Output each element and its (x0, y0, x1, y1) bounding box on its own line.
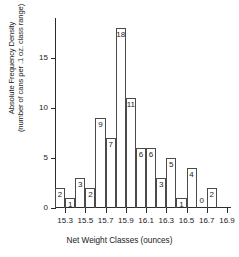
x-tick-label: 15.9 (118, 216, 134, 225)
x-tick-label: 15.7 (98, 216, 114, 225)
histogram-bar: 6 (146, 148, 156, 208)
bar-value: 0 (199, 197, 203, 205)
x-tick (187, 208, 188, 213)
x-tick (207, 208, 208, 213)
x-tick-label: 15.5 (78, 216, 94, 225)
histogram-bar: 11 (126, 98, 136, 208)
x-tick (126, 208, 127, 213)
y-tick: 5 (51, 158, 56, 159)
x-tick (146, 208, 147, 213)
histogram-figure: Absolute Frequency Density (number of ca… (0, 0, 239, 257)
y-tick: 15 (51, 58, 56, 59)
x-tick (166, 208, 167, 213)
y-tick-label: 0 (44, 203, 48, 212)
x-tick-label: 16.7 (199, 216, 215, 225)
histogram-bar: 5 (166, 158, 176, 208)
histogram-bar: 1 (176, 198, 186, 208)
bar-value: 7 (108, 141, 112, 149)
bar-value: 3 (78, 181, 82, 189)
y-tick-label: 15 (39, 53, 48, 62)
y-tick-label: 10 (39, 103, 48, 112)
bar-value: 1 (68, 201, 72, 209)
histogram-bar: 1 (65, 198, 75, 208)
bar-value: 6 (149, 151, 153, 159)
bar-value: 11 (127, 101, 135, 109)
histogram-bar: 2 (207, 188, 217, 208)
x-tick-label: 15.3 (57, 216, 73, 225)
x-tick-label: 16.3 (158, 216, 174, 225)
x-axis-title: Net Weight Classes (ounces) (0, 236, 239, 245)
bar-value: 5 (169, 161, 173, 169)
bar-value: 2 (88, 191, 92, 199)
histogram-bar: 9 (95, 118, 105, 208)
y-axis-line (55, 18, 56, 208)
x-tick (85, 208, 86, 213)
histogram-bar: 6 (136, 148, 146, 208)
bar-value: 18 (116, 31, 125, 39)
x-tick-label: 16.9 (219, 216, 235, 225)
x-tick (227, 208, 228, 213)
histogram-bar: 3 (156, 178, 166, 208)
x-tick-label: 16.5 (179, 216, 195, 225)
bar-value: 1 (179, 201, 183, 209)
histogram-bar: 18 (116, 28, 126, 208)
bar-value: 4 (189, 171, 193, 179)
y-tick: 10 (51, 108, 56, 109)
bar-value: 2 (58, 191, 62, 199)
y-axis-title-line-2: (number of cans per .1 oz. class range) (17, 4, 26, 132)
x-tick (65, 208, 66, 213)
bar-value: 6 (139, 151, 143, 159)
histogram-bar: 2 (55, 188, 65, 208)
y-tick: 0 (51, 208, 56, 209)
bar-value: 2 (210, 191, 214, 199)
bar-value: 9 (98, 121, 102, 129)
y-axis-title: Absolute Frequency Density (number of ca… (2, 0, 32, 156)
histogram-bar: 7 (106, 138, 116, 208)
x-tick (106, 208, 107, 213)
bar-value: 3 (159, 181, 163, 189)
histogram-bar: 4 (187, 168, 197, 208)
histogram-bar: 2 (85, 188, 95, 208)
x-tick-label: 16.1 (138, 216, 154, 225)
y-tick-label: 5 (44, 153, 48, 162)
histogram-bar: 3 (75, 178, 85, 208)
plot-area: 051015 15.315.515.715.916.116.316.516.71… (55, 18, 227, 208)
